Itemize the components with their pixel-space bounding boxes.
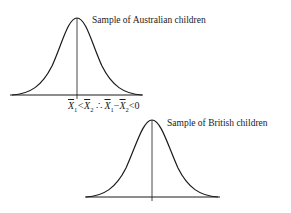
bottom-curve-label: Sample of British children: [167, 119, 268, 129]
distributions-figure: [0, 0, 291, 213]
top-curve-label: Sample of Australian children: [92, 16, 206, 26]
therefore-symbol: ∴: [93, 100, 104, 111]
mean-relation-equation: X1<X2 ∴ X1−X2<0: [68, 101, 139, 114]
less-than-zero: <0: [129, 100, 140, 111]
